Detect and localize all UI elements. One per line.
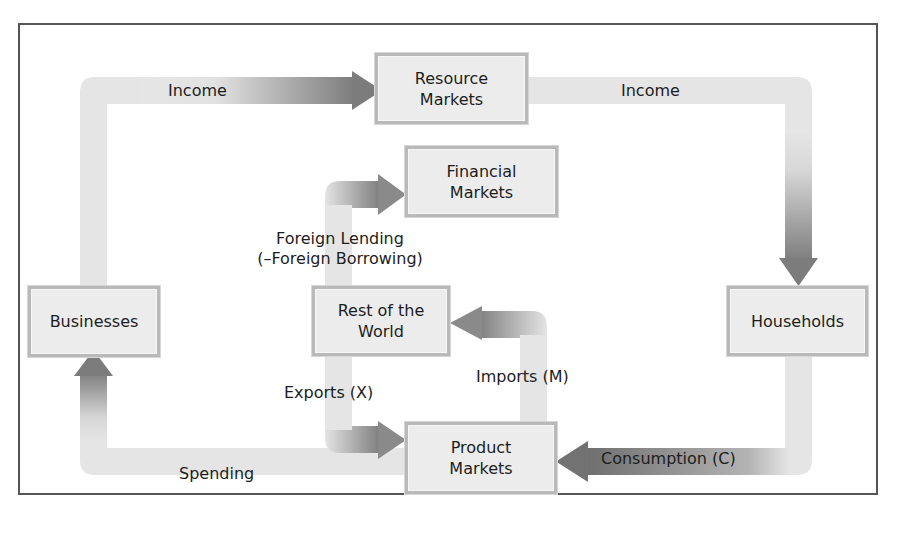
consumption-label: Consumption (C) xyxy=(601,449,736,469)
resource-markets-line2: Markets xyxy=(420,89,483,110)
rest-of-world-line1: Rest of the xyxy=(338,300,425,321)
income-label-right: Income xyxy=(621,81,680,101)
spending-label: Spending xyxy=(179,464,254,484)
financial-markets-line2: Markets xyxy=(450,182,513,203)
foreign-lending-label: Foreign Lending (–Foreign Borrowing) xyxy=(235,229,445,269)
foreign-lending-line2: (–Foreign Borrowing) xyxy=(235,249,445,269)
financial-markets-node: Financial Markets xyxy=(405,146,558,217)
income-label-left: Income xyxy=(168,81,227,101)
imports-label: Imports (M) xyxy=(476,367,569,387)
resource-markets-node: Resource Markets xyxy=(375,53,528,124)
rest-of-world-node: Rest of the World xyxy=(312,286,450,356)
financial-markets-line1: Financial xyxy=(446,161,516,182)
product-markets-line2: Markets xyxy=(449,458,512,479)
exports-arrow xyxy=(325,356,406,459)
businesses-node: Businesses xyxy=(28,286,160,357)
exports-label: Exports (X) xyxy=(284,383,373,403)
rest-of-world-line2: World xyxy=(358,321,404,342)
households-label: Households xyxy=(751,311,844,332)
households-node: Households xyxy=(727,286,868,356)
imports-arrow xyxy=(450,306,547,422)
main-loop-band xyxy=(80,77,812,475)
product-markets-node: Product Markets xyxy=(405,422,557,494)
spending-arrow xyxy=(74,350,113,442)
foreign-lending-line1: Foreign Lending xyxy=(235,229,445,249)
product-markets-line1: Product xyxy=(451,437,512,458)
businesses-label: Businesses xyxy=(50,311,139,332)
resource-markets-line1: Resource xyxy=(415,68,488,89)
income-arrow-right xyxy=(779,130,818,286)
